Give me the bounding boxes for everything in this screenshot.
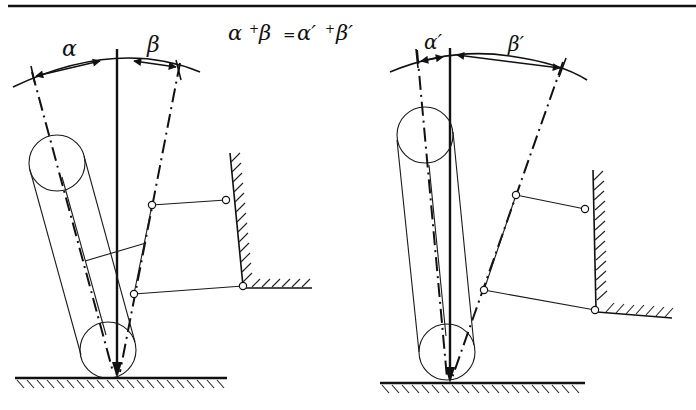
pivot-upright-bottom-left [130, 290, 137, 297]
wheel-top-circle-left [29, 135, 85, 191]
upright-left [134, 205, 152, 294]
lower-arm-left [134, 286, 243, 294]
wall-hatch-left [231, 153, 310, 287]
alpha-prime-label-right: α′ [424, 30, 443, 54]
eq-alpha-prime: α′ [297, 21, 316, 45]
wheel-side-outer-right [397, 140, 419, 352]
eq-equals: = [283, 26, 296, 44]
wall-hatch-right [594, 171, 673, 317]
ground-hatch-right [382, 385, 579, 393]
upright-right [484, 195, 516, 290]
upper-arm-left [152, 200, 226, 205]
alpha-tick-left [31, 66, 35, 84]
right-panel: α′ β′ [380, 30, 673, 393]
beta-tick-left [176, 60, 181, 80]
cross-member-left [85, 243, 146, 261]
floor-step-right [597, 312, 672, 318]
beta-prime-arrow-right [457, 55, 560, 68]
angle-arc-left [13, 58, 200, 87]
pivot-lower-arm-wall-right [591, 306, 598, 313]
alpha-arrow-left [36, 61, 100, 76]
beta-label-left: β [146, 32, 160, 57]
pivot-upright-top-left [148, 201, 155, 208]
pivot-lower-arm-wall-left [239, 282, 246, 289]
wall-left [230, 153, 243, 286]
eq-alpha: α [228, 21, 242, 45]
eq-beta-prime: β′ [335, 21, 353, 45]
eq-beta: β [258, 21, 271, 45]
ground-hatch-left [17, 380, 224, 388]
lower-arm-right [484, 290, 595, 310]
equation: α + β = α′ + β′ [228, 21, 353, 45]
pivot-upright-bottom-right [480, 286, 487, 293]
wheel-side-outer-left [30, 170, 81, 355]
pivot-upright-top-right [512, 191, 519, 198]
left-panel: α β [13, 32, 312, 388]
upper-arm-right [516, 195, 585, 209]
wheel-side-inner-right [453, 132, 474, 345]
pivot-upper-arm-wall-right [581, 205, 588, 212]
eq-plus-2: + [325, 22, 335, 36]
alpha-prime-arrow-right [421, 57, 443, 61]
pivot-upper-arm-wall-left [222, 196, 229, 203]
wheel-mid-line-right [429, 165, 446, 336]
beta-prime-label-right: β′ [507, 32, 525, 56]
eq-plus-1: + [249, 22, 259, 36]
diagram-canvas: α + β = α′ + β′ α β [0, 0, 696, 410]
alpha-label-left: α [62, 36, 77, 61]
